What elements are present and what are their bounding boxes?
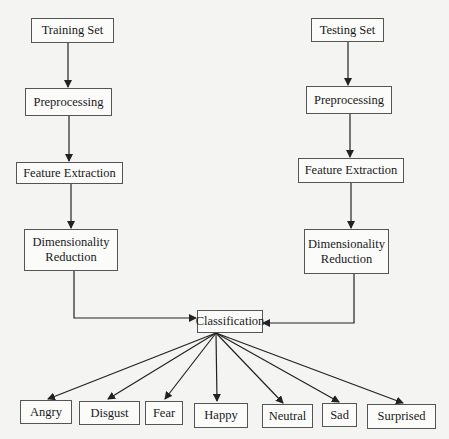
emotion-label: Neutral [269, 409, 306, 424]
emotion-angry-box: Angry [20, 400, 72, 424]
testing-set-box: Testing Set [311, 18, 384, 42]
dimensionality-reduction-right-box: Dimensionality Reduction [304, 229, 389, 274]
connector-lines [0, 0, 449, 439]
emotion-label: Surprised [378, 409, 426, 424]
emotion-label: Sad [330, 408, 349, 423]
feature-extraction-left-label: Feature Extraction [23, 166, 116, 181]
preprocessing-right-label: Preprocessing [314, 93, 384, 108]
training-set-box: Training Set [31, 18, 114, 43]
emotion-label: Angry [30, 405, 62, 420]
training-set-label: Training Set [42, 23, 104, 38]
feature-extraction-left-box: Feature Extraction [16, 162, 123, 184]
dimensionality-reduction-left-box: Dimensionality Reduction [24, 229, 118, 271]
dimensionality-reduction-right-line1: Dimensionality [308, 237, 385, 252]
emotion-fear-box: Fear [145, 401, 183, 425]
classification-box: Classification [197, 310, 263, 333]
preprocessing-right-box: Preprocessing [306, 86, 392, 114]
emotion-surprised-box: Surprised [367, 404, 436, 429]
preprocessing-left-box: Preprocessing [25, 88, 112, 116]
emotion-happy-box: Happy [194, 403, 248, 428]
dimensionality-reduction-left-line2: Reduction [45, 250, 96, 265]
testing-set-label: Testing Set [320, 23, 376, 38]
emotion-label: Happy [204, 408, 237, 423]
dimensionality-reduction-right-line2: Reduction [321, 252, 372, 267]
emotion-sad-box: Sad [322, 403, 357, 427]
dimensionality-reduction-left-line1: Dimensionality [32, 235, 109, 250]
feature-extraction-right-label: Feature Extraction [305, 163, 398, 178]
emotion-disgust-box: Disgust [79, 401, 140, 425]
feature-extraction-right-box: Feature Extraction [298, 158, 404, 183]
emotion-label: Disgust [90, 406, 128, 421]
emotion-neutral-box: Neutral [262, 404, 313, 428]
preprocessing-left-label: Preprocessing [33, 95, 103, 110]
emotion-label: Fear [153, 406, 175, 421]
classification-label: Classification [196, 314, 265, 329]
